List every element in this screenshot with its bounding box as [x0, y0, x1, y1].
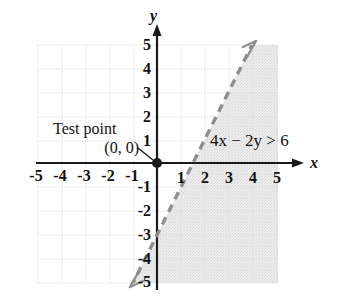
x-tick-2: 2	[201, 170, 209, 186]
x-tick-1: 1	[177, 170, 185, 186]
test-point-pointer	[138, 148, 153, 160]
x-tick--5: -5	[29, 168, 42, 184]
inequality-graph-figure: -5 -4 -3 -2 -1 1 2 3 4 5 5 4 3 2 1 -1 -2…	[0, 0, 339, 304]
y-tick-5: 5	[133, 37, 151, 53]
y-axis-arrow	[153, 24, 162, 36]
test-point-label-line2: (0, 0)	[53, 140, 139, 156]
y-tick-4: 4	[133, 61, 151, 77]
y-axis-label: y	[150, 8, 157, 24]
y-tick--5: -5	[128, 274, 151, 290]
coordinate-plane-svg	[0, 0, 339, 304]
x-tick-3: 3	[225, 170, 233, 186]
x-tick--3: -3	[77, 168, 90, 184]
x-tick--2: -2	[101, 168, 114, 184]
inequality-label: 4x − 2y > 6	[210, 132, 289, 149]
test-point-label-line1: Test point	[53, 121, 139, 137]
y-tick--2: -2	[128, 203, 151, 219]
y-tick-3: 3	[133, 85, 151, 101]
y-tick--1: -1	[128, 179, 151, 195]
y-tick--3: -3	[128, 227, 151, 243]
test-point-dot	[152, 158, 162, 168]
x-tick-4: 4	[249, 170, 257, 186]
x-tick-5: 5	[273, 170, 281, 186]
x-axis-label: x	[310, 155, 318, 171]
test-point-annotation: Test point (0, 0)	[53, 121, 139, 156]
x-axis-arrow	[292, 159, 304, 168]
y-tick--4: -4	[128, 251, 151, 267]
x-tick--4: -4	[53, 168, 66, 184]
